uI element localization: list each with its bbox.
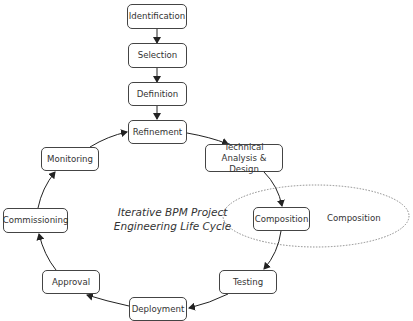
step-technical-analysis-design[interactable]: Technical Analysis & Design	[205, 144, 283, 172]
step-label: Deployment	[132, 304, 185, 315]
step-label: Definition	[137, 89, 179, 100]
title-line2: Engineering Life Cycle	[110, 219, 235, 233]
step-label: Monitoring	[47, 154, 93, 165]
arrow-composition-testing	[264, 231, 281, 269]
arrow-deployment-approval	[87, 295, 129, 306]
step-definition[interactable]: Definition	[128, 82, 187, 106]
step-composition[interactable]: Composition	[253, 207, 310, 231]
step-selection[interactable]: Selection	[128, 43, 187, 68]
step-label-line1: Technical	[224, 142, 263, 153]
step-label: Identification	[129, 11, 185, 22]
step-label: Approval	[52, 277, 90, 288]
step-testing[interactable]: Testing	[219, 270, 277, 294]
step-deployment[interactable]: Deployment	[129, 297, 187, 321]
step-refinement[interactable]: Refinement	[128, 120, 187, 144]
step-identification[interactable]: Identification	[127, 4, 187, 29]
title-line1: Iterative BPM Project	[110, 205, 235, 219]
step-commissioning[interactable]: Commissioning	[3, 208, 68, 233]
step-label: Selection	[138, 50, 178, 61]
composition-highlight-ellipse	[223, 185, 409, 247]
arrow-approval-commissioning	[39, 234, 56, 270]
arrow-monitoring-refinement	[90, 132, 127, 147]
step-label: Refinement	[133, 127, 183, 138]
step-label: Composition	[255, 214, 309, 225]
step-approval[interactable]: Approval	[42, 270, 100, 294]
arrow-commissioning-monitoring	[38, 172, 55, 208]
step-label-line2: Analysis & Design	[206, 153, 282, 175]
composition-highlight-label: Composition	[327, 213, 381, 223]
step-label: Commissioning	[3, 215, 69, 226]
arrow-refinement-technical	[187, 133, 228, 144]
diagram-title: Iterative BPM Project Engineering Life C…	[110, 205, 235, 233]
step-monitoring[interactable]: Monitoring	[41, 147, 99, 171]
step-label: Testing	[233, 277, 263, 288]
arrow-testing-deployment	[189, 294, 228, 308]
